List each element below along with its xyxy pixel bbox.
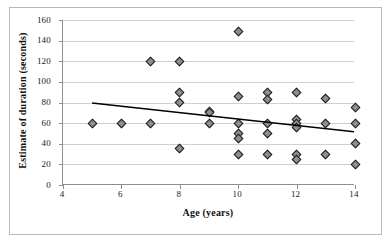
x-tick-label: 4 <box>52 190 72 199</box>
x-tick-label: 12 <box>286 190 306 199</box>
y-tick-label: 80 <box>0 98 51 107</box>
x-tick-label: 10 <box>227 190 247 199</box>
chart-figure: Estimate of duration (seconds) Age (year… <box>0 0 391 244</box>
x-tick-mark <box>297 185 298 189</box>
x-tick-label: 8 <box>169 190 189 199</box>
trend-line <box>63 20 354 184</box>
y-tick-label: 120 <box>0 57 51 66</box>
y-tick-label: 60 <box>0 119 51 128</box>
x-tick-label: 6 <box>110 190 130 199</box>
x-tick-mark <box>63 185 64 189</box>
y-tick-label: 40 <box>0 139 51 148</box>
y-tick-label: 20 <box>0 160 51 169</box>
x-tick-mark <box>238 185 239 189</box>
y-tick-label: 0 <box>0 181 51 190</box>
x-tick-mark <box>180 185 181 189</box>
x-tick-label: 14 <box>344 190 364 199</box>
x-tick-mark <box>355 185 356 189</box>
x-axis-label: Age (years) <box>62 207 354 218</box>
y-tick-label: 160 <box>0 16 51 25</box>
x-tick-mark <box>121 185 122 189</box>
y-tick-label: 140 <box>0 36 51 45</box>
plot-area <box>62 20 354 185</box>
y-tick-label: 100 <box>0 77 51 86</box>
